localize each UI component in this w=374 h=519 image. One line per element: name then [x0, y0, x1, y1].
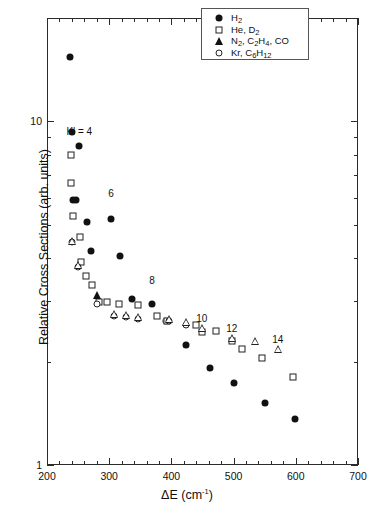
x-tick [109, 18, 110, 25]
x-tick [59, 461, 60, 465]
data-point-open-square [259, 354, 266, 361]
y-tick [354, 175, 358, 176]
data-point-filled-circle [206, 364, 213, 371]
x-tick [97, 461, 98, 465]
marker-glyph [215, 37, 223, 45]
data-point-open-square [68, 151, 75, 158]
y-tick [354, 137, 358, 138]
annotation-label: 6 [108, 187, 114, 198]
x-tick [72, 461, 73, 465]
data-point-open-triangle [228, 334, 236, 342]
x-tick [84, 18, 85, 22]
y-tick [354, 18, 358, 19]
annotation-label: 12 [226, 323, 237, 334]
x-tick [171, 458, 172, 465]
x-tick [184, 18, 185, 22]
data-point-filled-circle [83, 218, 90, 225]
x-tick [283, 461, 284, 465]
data-point-open-square [290, 374, 297, 381]
data-point-filled-triangle [93, 291, 101, 299]
legend-item: H2 [202, 12, 308, 24]
x-tick [246, 461, 247, 465]
data-point-filled-circle [231, 380, 238, 387]
y-tick [354, 155, 358, 156]
legend-marker-open-circle [211, 47, 231, 58]
x-tick [296, 458, 297, 465]
data-point-filled-circle [76, 142, 83, 149]
x-tick [209, 461, 210, 465]
plot-frame [47, 18, 358, 465]
data-point-open-square [238, 345, 245, 352]
data-point-open-square [68, 180, 75, 187]
x-tick [196, 461, 197, 465]
data-point-open-triangle [274, 345, 282, 353]
x-tick [47, 458, 48, 465]
data-point-filled-circle [117, 253, 124, 260]
data-point-open-square [103, 299, 110, 306]
data-point-open-triangle [165, 315, 173, 323]
data-point-open-triangle [74, 261, 82, 269]
legend-item: He, D2 [202, 24, 308, 36]
legend-label: H2 [231, 12, 242, 23]
data-point-open-square [134, 302, 141, 309]
legend-label: Kr, C6H12 [231, 47, 272, 58]
data-point-filled-circle [67, 53, 74, 60]
annotation-label: K' = 4 [67, 125, 93, 136]
data-point-open-square [82, 272, 89, 279]
x-tick [308, 461, 309, 465]
x-tick [97, 18, 98, 22]
x-tick [358, 458, 359, 465]
x-tick [258, 461, 259, 465]
data-point-filled-circle [292, 416, 299, 423]
annotation-label: 8 [149, 275, 155, 286]
data-point-open-square [115, 300, 122, 307]
x-tick [346, 461, 347, 465]
y-tick [354, 362, 358, 363]
x-tick [122, 18, 123, 22]
data-point-open-triangle [198, 324, 206, 332]
legend-marker-filled-circle [211, 12, 231, 23]
x-tick [321, 18, 322, 22]
y-axis-title: Relative Cross Sections (arb. units) [37, 107, 51, 387]
y-tick [354, 225, 358, 226]
x-tick [184, 461, 185, 465]
data-point-open-square [212, 328, 219, 335]
chart-root: 200300400500600700110 K' = 468101214 ΔE … [0, 0, 374, 519]
marker-glyph [216, 15, 223, 22]
data-point-filled-circle [73, 197, 80, 204]
x-tick [134, 18, 135, 22]
x-tick [47, 18, 48, 25]
data-point-open-triangle [68, 237, 76, 245]
x-tick [321, 461, 322, 465]
y-tick [351, 121, 358, 122]
x-axis-title: ΔE (cm-1) [0, 487, 374, 502]
marker-glyph [216, 26, 223, 33]
x-tick-label: 600 [276, 470, 316, 482]
chart-legend: H2He, D2N2, C2H4, COKr, C6H12 [201, 8, 309, 60]
data-point-open-square [69, 213, 76, 220]
y-tick-label: 1 [16, 459, 42, 471]
x-tick [358, 18, 359, 25]
y-tick [354, 198, 358, 199]
data-point-open-circle [94, 300, 101, 307]
y-tick [47, 465, 54, 466]
x-tick [134, 461, 135, 465]
x-tick [84, 461, 85, 465]
x-tick [221, 461, 222, 465]
data-point-open-square [154, 312, 161, 319]
x-tick-label: 700 [338, 470, 374, 482]
x-tick [159, 461, 160, 465]
data-point-open-triangle [122, 311, 130, 319]
x-tick [147, 18, 148, 22]
legend-label: He, D2 [231, 24, 259, 35]
x-tick [72, 18, 73, 22]
y-tick [351, 465, 358, 466]
data-point-open-triangle [110, 310, 118, 318]
x-tick [147, 461, 148, 465]
y-tick [354, 258, 358, 259]
x-tick-label: 200 [27, 470, 67, 482]
legend-marker-filled-triangle [211, 35, 231, 46]
x-tick [333, 461, 334, 465]
legend-label: N2, C2H4, CO [231, 35, 289, 46]
x-tick [196, 18, 197, 22]
